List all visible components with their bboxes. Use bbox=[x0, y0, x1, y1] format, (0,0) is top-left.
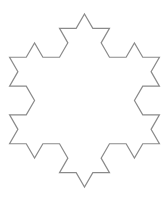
koch-snowflake-canvas bbox=[0, 0, 167, 199]
koch-snowflake-outline bbox=[10, 14, 160, 187]
